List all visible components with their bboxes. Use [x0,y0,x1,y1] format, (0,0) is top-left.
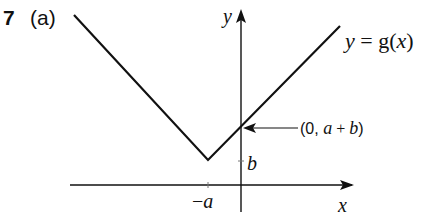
question-figure: 7 (a) y x y = g(x) −a [0,0,422,214]
x-axis-label: x [337,194,347,214]
intercept-annotation: (0, a + b) [300,118,363,138]
graph: y x y = g(x) −a b (0, a + b) [0,0,422,214]
curve-label: y = g(x) [343,28,414,53]
y-tick-label: b [247,152,257,174]
y-axis-label: y [221,5,232,28]
x-tick-label: −a [192,190,213,212]
graph-curve [74,15,340,160]
